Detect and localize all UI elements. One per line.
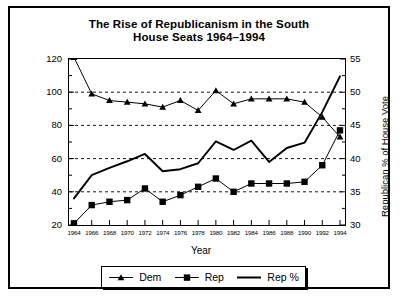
data-point-marker <box>177 192 183 198</box>
legend-item[interactable]: Rep % <box>236 271 299 283</box>
series-rep <box>74 76 340 198</box>
data-point-marker <box>266 180 272 186</box>
legend-item[interactable]: Rep <box>174 271 224 283</box>
y-tick-label-left: 20 <box>36 219 62 230</box>
y-tick-label-right: 45 <box>350 119 376 130</box>
y-tick-label-left: 60 <box>36 153 62 164</box>
chart-frame: The Rise of Republicanism in the South H… <box>8 6 390 289</box>
y-tick-label-left: 100 <box>36 86 62 97</box>
legend-marker-triangle-icon <box>108 273 134 282</box>
y-axis-label-right: Republican % of House Vote <box>379 96 390 217</box>
chart-title-line1: The Rise of Republicanism in the South <box>89 18 309 30</box>
plot-svg <box>69 59 345 225</box>
data-point-marker <box>106 199 112 205</box>
y-tick-label-left: 120 <box>36 53 62 64</box>
data-point-marker <box>142 185 148 191</box>
legend-label: Rep % <box>267 271 299 283</box>
data-point-marker <box>159 199 165 205</box>
chart-subtitle: House Seats 1964–1994 <box>10 31 388 44</box>
y-tick-label-right: 35 <box>350 186 376 197</box>
plot-area <box>68 58 346 226</box>
legend-label: Rep <box>205 271 224 283</box>
data-point-marker <box>284 180 290 186</box>
legend-marker-square-icon <box>174 273 200 282</box>
data-point-marker <box>89 202 95 208</box>
data-point-marker <box>248 180 254 186</box>
data-point-marker <box>71 54 78 60</box>
data-point-marker <box>195 184 201 190</box>
data-point-marker <box>337 127 343 133</box>
series-rep <box>71 127 343 226</box>
data-point-marker <box>124 197 130 203</box>
y-tick-label-right: 40 <box>350 153 376 164</box>
data-point-marker <box>319 162 325 168</box>
legend-item[interactable]: Dem <box>108 271 161 283</box>
y-tick-label-left: 40 <box>36 186 62 197</box>
legend-marker-line-icon <box>236 273 262 282</box>
y-tick-label-right: 50 <box>350 86 376 97</box>
series-dem <box>71 54 344 140</box>
x-tick-label: 1994 <box>327 229 353 236</box>
legend-label: Dem <box>139 271 161 283</box>
y-tick-label-left: 80 <box>36 119 62 130</box>
data-point-marker <box>213 175 219 181</box>
data-point-marker <box>88 90 95 96</box>
data-point-marker <box>230 189 236 195</box>
y-tick-label-right: 30 <box>350 219 376 230</box>
y-tick-label-right: 55 <box>350 53 376 64</box>
data-point-marker <box>71 220 77 226</box>
chart-title: The Rise of Republicanism in the South H… <box>10 18 388 44</box>
x-axis-label: Year <box>10 245 392 256</box>
series-line <box>74 76 340 198</box>
data-point-marker <box>177 97 184 103</box>
chart-legend: DemRepRep % <box>101 266 306 288</box>
data-point-marker <box>212 87 219 93</box>
data-point-marker <box>301 179 307 185</box>
